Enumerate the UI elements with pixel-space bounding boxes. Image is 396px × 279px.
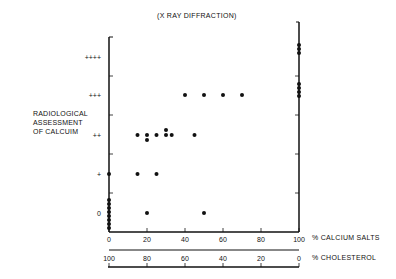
- data-point: [155, 133, 159, 137]
- y-category-label: +: [97, 171, 101, 178]
- y-category-label: ++: [93, 132, 101, 139]
- x2-tick-label: 0: [297, 255, 301, 262]
- data-point: [164, 133, 168, 137]
- x-tick-label: 60: [219, 236, 227, 243]
- x-tick-label: 0: [107, 236, 111, 243]
- data-point: [107, 206, 111, 210]
- y-category-label: +++: [89, 92, 101, 99]
- data-point: [107, 214, 111, 218]
- data-point: [136, 172, 140, 176]
- data-point: [202, 93, 206, 97]
- data-point: [297, 43, 301, 47]
- x-tick-label: 80: [257, 236, 265, 243]
- data-point: [221, 93, 225, 97]
- data-point: [202, 211, 206, 215]
- data-point: [240, 93, 244, 97]
- data-point: [297, 94, 301, 98]
- data-point: [107, 222, 111, 226]
- data-point: [107, 210, 111, 214]
- data-point: [107, 172, 111, 176]
- x-tick-label: 40: [181, 236, 189, 243]
- x2-tick-label: 20: [257, 255, 265, 262]
- data-point: [136, 133, 140, 137]
- data-point: [107, 226, 111, 230]
- data-point: [107, 202, 111, 206]
- x2-tick-label: 80: [143, 255, 151, 262]
- x-tick-label: 100: [293, 236, 305, 243]
- data-point: [155, 172, 159, 176]
- y-category-label: ++++: [85, 54, 101, 61]
- data-point: [297, 47, 301, 51]
- data-point: [107, 198, 111, 202]
- x-tick-label: 20: [143, 236, 151, 243]
- data-point: [183, 93, 187, 97]
- scatter-plot: 0++++++++++020406080100100806040200: [0, 0, 396, 279]
- data-point: [107, 218, 111, 222]
- data-point: [164, 128, 168, 132]
- x2-tick-label: 100: [103, 255, 115, 262]
- data-point: [145, 133, 149, 137]
- data-point: [297, 90, 301, 94]
- data-point: [297, 86, 301, 90]
- x2-tick-label: 60: [181, 255, 189, 262]
- data-point: [170, 133, 174, 137]
- data-point: [297, 51, 301, 55]
- y-category-label: 0: [97, 210, 101, 217]
- data-point: [297, 82, 301, 86]
- x2-tick-label: 40: [219, 255, 227, 262]
- data-point: [145, 211, 149, 215]
- data-point: [145, 138, 149, 142]
- data-point: [193, 133, 197, 137]
